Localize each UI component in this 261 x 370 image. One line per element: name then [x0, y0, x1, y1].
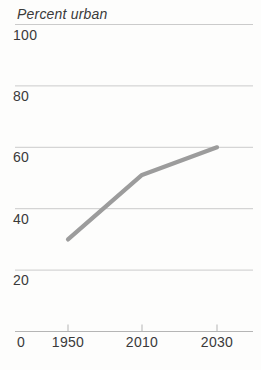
x-tick-label-2030: 2030	[201, 334, 233, 350]
y-tick-label-40: 40	[13, 211, 29, 227]
x-tick-label-1950: 1950	[52, 334, 84, 350]
percent-urban-line-chart: Percent urban 100806040201950201020300	[0, 0, 261, 370]
y-tick-label-100: 100	[13, 27, 37, 43]
y-tick-label-60: 60	[13, 149, 29, 165]
plot-area: 100806040201950201020300	[0, 0, 261, 370]
trend-line-percent-urban	[68, 147, 217, 239]
x-tick-label-2010: 2010	[126, 334, 158, 350]
y-tick-label-20: 20	[13, 272, 29, 288]
origin-label: 0	[17, 334, 25, 350]
y-tick-label-80: 80	[13, 88, 29, 104]
